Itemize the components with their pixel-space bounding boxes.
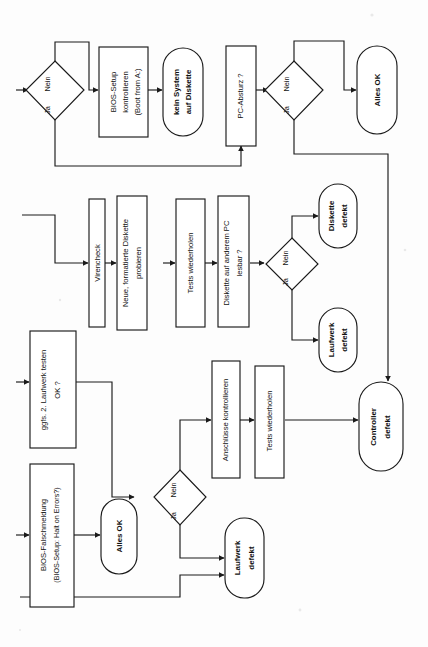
node-tests-wiederholen-row3[interactable]: Tests wiederholen — [255, 366, 284, 478]
neue-diskette-line1: Neue, formatierte Diskette — [121, 219, 130, 307]
lesbar-line1: Diskette auf anderem PC — [222, 220, 231, 305]
branch-label-ja: Ja — [169, 511, 178, 520]
branch-label-nein: Nein — [43, 76, 52, 91]
bios-setup-line1: BIOS-Setup — [109, 72, 118, 113]
node-zweites-laufwerk-testen[interactable]: ggfs. 2. Laufwerk testen OK ? — [30, 331, 76, 448]
node-bios-setup-kontrollieren[interactable]: BIOS-Setup kontrollieren (Boot from A:) — [99, 47, 148, 137]
terminator-shape — [319, 308, 357, 372]
bios-setup-line2: kontrollieren — [121, 71, 130, 112]
node-controller-defekt[interactable]: Controller defekt — [359, 382, 403, 471]
anschluesse-label: Anschlüsse kontrollieren — [221, 379, 230, 461]
node-pc-absturz[interactable]: PC-Absturz ? — [226, 46, 256, 146]
branch-label-nein: Nein — [169, 482, 178, 497]
controller-defekt-line1: Controller — [369, 408, 378, 446]
bios-setup-line3: (Boot from A:) — [133, 68, 142, 115]
branch-label-nein: Nein — [281, 250, 290, 265]
node-alles-ok-row4[interactable]: Alles OK — [101, 499, 137, 574]
terminator-shape — [359, 382, 403, 471]
bios-falsch-line2: (BIOS-Setup: Halt on Errors?) — [52, 487, 61, 582]
branch-label-ja: Ja — [43, 105, 52, 114]
node-alles-ok-row1[interactable]: Alles OK — [357, 46, 397, 134]
node-bios-falschmeldung[interactable]: BIOS-Falschmeldung (BIOS-Setup: Halt on … — [30, 464, 74, 607]
alles-ok-label: Alles OK — [115, 519, 124, 552]
controller-defekt-line2: defekt — [383, 415, 392, 439]
zweites-laufwerk-line1: ggfs. 2. Laufwerk testen — [39, 350, 48, 431]
kein-system-line2: auf Diskette — [184, 69, 193, 114]
node-tests-wiederholen-row2[interactable]: Tests wiederholen — [176, 199, 205, 327]
node-virencheck[interactable]: Virencheck — [89, 199, 105, 327]
laufwerk-defekt-line1: Laufwerk — [327, 322, 336, 357]
node-anschluesse-kontrollieren[interactable]: Anschlüsse kontrollieren — [212, 361, 240, 478]
diskette-defekt-line1: Diskette — [327, 200, 336, 231]
branch-label-nein: Nein — [282, 76, 291, 91]
node-laufwerk-defekt-row2[interactable]: Laufwerk defekt — [319, 308, 357, 372]
tests-wiederholen-label: Tests wiederholen — [265, 391, 274, 452]
alles-ok-label: Alles OK — [373, 73, 382, 106]
branch-label-ja: Ja — [282, 105, 291, 114]
terminator-shape — [225, 518, 264, 598]
tests-wiederholen-label: Tests wiederholen — [186, 233, 195, 294]
terminator-shape — [319, 184, 357, 248]
neue-diskette-line2: probieren — [134, 247, 143, 279]
branch-label-ja: Ja — [281, 277, 290, 286]
diskette-defekt-line2: defekt — [340, 204, 349, 228]
node-laufwerk-defekt-row4[interactable]: Laufwerk defekt — [225, 518, 264, 598]
node-diskette-lesbar[interactable]: Diskette auf anderem PC lesbar ? — [218, 196, 249, 327]
virencheck-label: Virencheck — [93, 244, 102, 282]
kein-system-line1: kein System — [172, 69, 181, 115]
laufwerk-defekt-line2: defekt — [340, 328, 349, 352]
laufwerk-defekt-line1: Laufwerk — [233, 540, 242, 575]
laufwerk-defekt-line2: defekt — [247, 546, 256, 570]
flowchart-canvas: Nein Ja BIOS-Setup kontrollieren (Boot f… — [0, 0, 428, 647]
pc-absturz-label: PC-Absturz ? — [236, 73, 245, 118]
node-neue-formatierte-diskette[interactable]: Neue, formatierte Diskette probieren — [117, 196, 147, 330]
lesbar-line2: lesbar ? — [235, 249, 244, 276]
zweites-laufwerk-line2: OK ? — [53, 381, 62, 398]
terminator-shape — [163, 48, 203, 136]
bios-falsch-line1: BIOS-Falschmeldung — [39, 499, 48, 571]
node-kein-system-auf-diskette[interactable]: kein System auf Diskette — [163, 48, 203, 136]
node-diskette-defekt[interactable]: Diskette defekt — [319, 184, 357, 248]
flowchart-page: Nein Ja BIOS-Setup kontrollieren (Boot f… — [0, 0, 428, 647]
